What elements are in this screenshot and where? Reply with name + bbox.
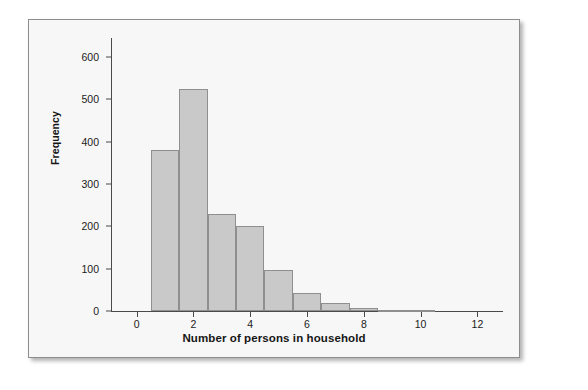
- x-tick-mark: [193, 312, 194, 317]
- x-tick-label: 12: [462, 318, 492, 330]
- histogram-bar: [406, 310, 434, 312]
- y-tick-mark: [106, 99, 111, 100]
- x-tick-mark: [364, 312, 365, 317]
- histogram-bar: [208, 214, 236, 311]
- y-tick-label: 600: [63, 51, 99, 63]
- figure-panel: Frequency Number of persons in household…: [28, 19, 520, 358]
- y-tick-mark: [106, 184, 111, 185]
- y-axis-line: [111, 38, 112, 311]
- y-tick-label: 500: [63, 93, 99, 105]
- histogram-bar: [350, 308, 378, 311]
- histogram-bar: [179, 89, 207, 311]
- y-tick-mark: [106, 311, 111, 312]
- x-tick-mark: [307, 312, 308, 317]
- x-tick-mark: [421, 312, 422, 317]
- y-axis-title: Frequency: [49, 78, 61, 198]
- histogram-bar: [321, 303, 349, 311]
- histogram-plot: Frequency Number of persons in household…: [29, 20, 519, 357]
- histogram-bar: [378, 310, 406, 312]
- y-tick-mark: [106, 268, 111, 269]
- y-tick-mark: [106, 141, 111, 142]
- y-tick-label: 300: [63, 178, 99, 190]
- histogram-bar: [293, 293, 321, 311]
- x-tick-label: 10: [406, 318, 436, 330]
- y-tick-label: 400: [63, 136, 99, 148]
- y-tick-label: 200: [63, 220, 99, 232]
- y-tick-label: 0: [63, 305, 99, 317]
- y-tick-mark: [106, 57, 111, 58]
- histogram-bar: [264, 270, 292, 311]
- x-tick-label: 8: [349, 318, 379, 330]
- x-tick-mark: [250, 312, 251, 317]
- x-tick-mark: [477, 312, 478, 317]
- x-axis-title: Number of persons in household: [29, 332, 519, 344]
- histogram-bar: [236, 226, 264, 311]
- x-tick-label: 2: [178, 318, 208, 330]
- histogram-bar: [151, 150, 179, 311]
- x-tick-mark: [137, 312, 138, 317]
- x-tick-label: 4: [235, 318, 265, 330]
- y-tick-label: 100: [63, 263, 99, 275]
- x-tick-label: 6: [292, 318, 322, 330]
- x-tick-label: 0: [122, 318, 152, 330]
- y-tick-mark: [106, 226, 111, 227]
